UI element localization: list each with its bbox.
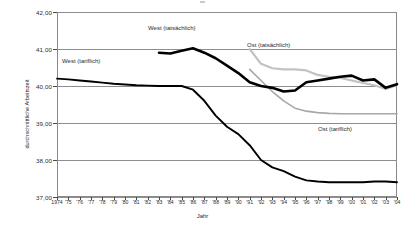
series-label-west-tariflich: West (tariflich) xyxy=(62,58,100,64)
x-axis-title: Jahr xyxy=(0,213,405,219)
series-lines-layer xyxy=(0,0,405,228)
series-label-west-tatsaechlich: West (tatsächlich) xyxy=(148,25,196,31)
chart-container: durchschnittliche Arbeitszeit 37,0038,00… xyxy=(0,0,405,228)
series-label-ost-tatsaechlich: Ost (tatsächlich) xyxy=(247,42,290,48)
line-ost-tatsaechlich xyxy=(250,49,397,89)
series-label-ost-tariflich: Ost (tariflich) xyxy=(318,126,352,132)
line-west-tatsaechlich xyxy=(159,48,397,91)
